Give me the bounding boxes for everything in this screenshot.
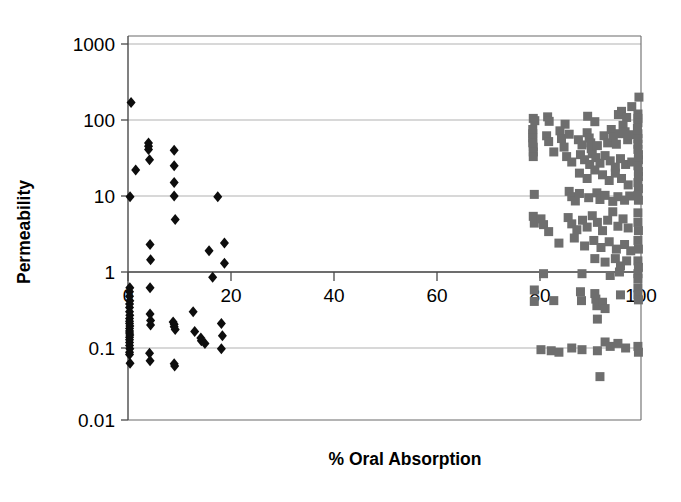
- data-point-square: [612, 245, 621, 254]
- data-point-square: [549, 147, 558, 156]
- y-tick-label-10: 10: [94, 186, 115, 207]
- data-point-square: [616, 290, 625, 299]
- data-point-square: [603, 216, 612, 225]
- data-point-square: [544, 137, 553, 146]
- data-point-square: [633, 208, 642, 217]
- x-tick-label-40: 40: [323, 285, 344, 306]
- data-point-square: [530, 285, 539, 294]
- data-point-square: [578, 269, 587, 278]
- y-tick-labels: 1000 100 10 1 0.1 0.01: [73, 34, 115, 431]
- data-point-square: [608, 207, 617, 216]
- data-point-square: [583, 223, 592, 232]
- data-point-square: [590, 117, 599, 126]
- data-point-square: [622, 256, 631, 265]
- data-point-square: [584, 193, 593, 202]
- data-point-square: [530, 297, 539, 306]
- data-point-square: [578, 345, 587, 354]
- data-point-square: [593, 218, 602, 227]
- data-point-square: [580, 241, 589, 250]
- data-point-square: [625, 192, 634, 201]
- plot-area-background: [128, 36, 641, 420]
- data-point-square: [544, 227, 553, 236]
- data-point-square: [560, 143, 569, 152]
- data-point-square: [555, 126, 564, 135]
- x-axis-title: % Oral Absorption: [329, 449, 482, 469]
- y-tick-label-0.1: 0.1: [89, 338, 115, 359]
- data-point-square: [633, 274, 642, 283]
- data-point-square: [633, 236, 642, 245]
- data-point-square: [583, 174, 592, 183]
- scatter-plot-svg: 1000 100 10 1 0.1 0.01 0 20 40 60 80 100…: [0, 0, 681, 502]
- data-point-square: [547, 346, 556, 355]
- data-point-square: [624, 180, 633, 189]
- y-tick-label-0.01: 0.01: [78, 410, 115, 431]
- data-point-square: [593, 141, 602, 150]
- data-point-square: [613, 339, 622, 348]
- x-tick-label-60: 60: [426, 285, 447, 306]
- data-point-square: [570, 234, 579, 243]
- data-point-square: [590, 165, 599, 174]
- data-point-square: [619, 214, 628, 223]
- data-point-square: [595, 372, 604, 381]
- y-tick-label-1: 1: [104, 262, 115, 283]
- data-point-square: [575, 189, 584, 198]
- data-point-square: [539, 269, 548, 278]
- data-point-square: [577, 296, 586, 305]
- data-point-square: [624, 223, 633, 232]
- data-point-square: [634, 226, 643, 235]
- y-axis-title: Permeability: [14, 180, 34, 284]
- data-point-square: [530, 116, 539, 125]
- data-point-square: [601, 304, 610, 313]
- data-point-square: [622, 113, 631, 122]
- data-point-square: [601, 258, 610, 267]
- data-point-square: [549, 296, 558, 305]
- data-point-square: [626, 246, 635, 255]
- data-point-square: [530, 190, 539, 199]
- data-point-square: [633, 218, 642, 227]
- data-point-square: [536, 345, 545, 354]
- data-point-square: [615, 268, 624, 277]
- data-point-square: [545, 117, 554, 126]
- x-tick-label-20: 20: [220, 285, 241, 306]
- data-point-square: [567, 158, 576, 167]
- data-point-square: [634, 348, 643, 357]
- data-point-square: [575, 169, 584, 178]
- data-point-square: [529, 152, 538, 161]
- permeability-vs-absorption-chart: 1000 100 10 1 0.1 0.01 0 20 40 60 80 100…: [0, 0, 681, 502]
- data-point-square: [565, 130, 574, 139]
- y-tick-label-1000: 1000: [73, 34, 115, 55]
- data-point-square: [634, 196, 643, 205]
- data-point-square: [606, 342, 615, 351]
- data-point-square: [612, 140, 621, 149]
- data-point-square: [557, 134, 566, 143]
- data-point-square: [634, 245, 643, 254]
- y-tick-label-100: 100: [83, 110, 115, 131]
- data-point-square: [554, 348, 563, 357]
- data-point-square: [598, 226, 607, 235]
- data-point-square: [634, 93, 643, 102]
- data-point-square: [567, 344, 576, 353]
- data-point-square: [554, 239, 563, 248]
- data-point-square: [590, 254, 599, 263]
- data-point-square: [601, 191, 610, 200]
- data-point-square: [634, 295, 643, 304]
- data-point-square: [596, 243, 605, 252]
- data-point-square: [576, 287, 585, 296]
- data-point-square: [593, 315, 602, 324]
- data-point-square: [606, 271, 615, 280]
- data-point-square: [593, 346, 602, 355]
- data-point-square: [572, 225, 581, 234]
- data-point-square: [621, 344, 630, 353]
